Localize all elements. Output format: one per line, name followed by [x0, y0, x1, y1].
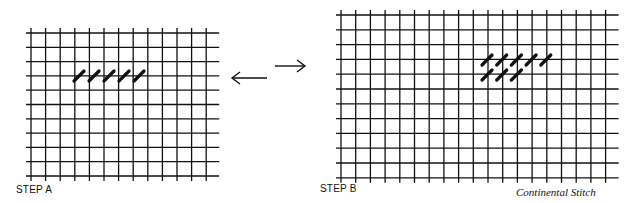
- step-b-label: STEP B: [320, 183, 357, 194]
- arrow-right-icon: [275, 60, 305, 72]
- stitch-diagrams: [0, 0, 627, 203]
- arrow-left-icon: [232, 72, 267, 84]
- canvas-grid-b: [336, 10, 619, 183]
- canvas-grid-a: [26, 28, 219, 181]
- figure-caption: Continental Stitch: [516, 186, 596, 198]
- step-a-label: STEP A: [16, 184, 52, 195]
